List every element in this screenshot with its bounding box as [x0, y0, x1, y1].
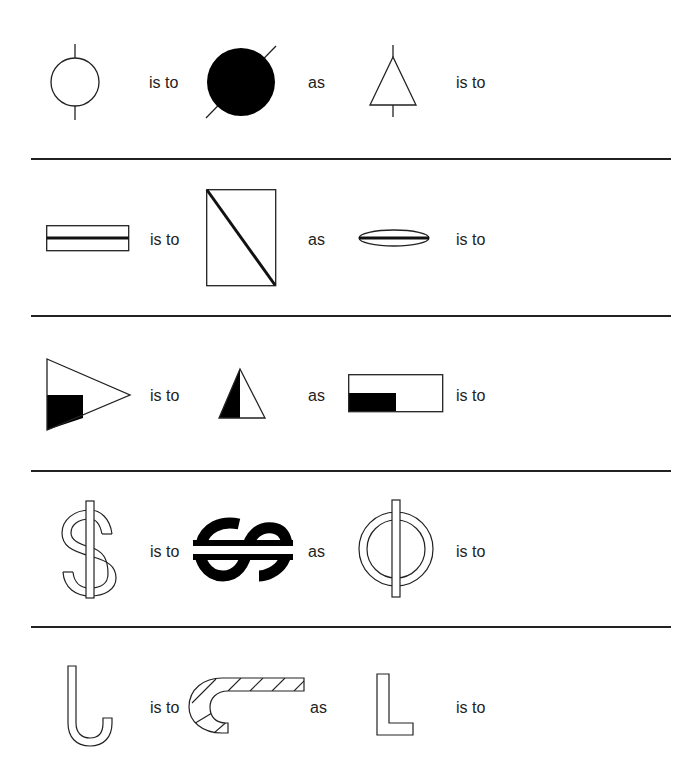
as-label: as	[308, 387, 325, 405]
wide-rectangle-line-icon	[46, 225, 130, 252]
row-divider	[31, 158, 671, 160]
triangle-with-ticks-icon	[368, 45, 418, 117]
rectangle-shaded-corner-icon	[348, 374, 444, 413]
is-to-label: is to	[456, 543, 485, 561]
as-label: as	[308, 74, 325, 92]
filled-circle-diagonal-icon	[204, 44, 278, 120]
is-to-label: is to	[456, 231, 485, 249]
bold-rotated-dollar-sign-icon	[193, 518, 293, 582]
as-label: as	[310, 699, 327, 717]
analogy-puzzle: is to as is to is to as is to	[0, 0, 700, 767]
circle-with-ticks-icon	[50, 44, 100, 120]
ellipse-line-icon	[357, 226, 431, 250]
row-divider	[31, 315, 671, 317]
is-to-label: is to	[149, 74, 178, 92]
hatched-hook-icon	[188, 677, 306, 735]
half-shaded-triangle-icon	[218, 368, 267, 420]
tall-rectangle-diagonal-icon	[206, 189, 277, 287]
is-to-label: is to	[150, 543, 179, 561]
is-to-label: is to	[456, 74, 485, 92]
is-to-label: is to	[150, 699, 179, 717]
is-to-label: is to	[150, 387, 179, 405]
as-label: as	[308, 543, 325, 561]
outlined-j-hook-icon	[66, 665, 114, 747]
outlined-letter-l-icon	[376, 673, 416, 737]
row-divider	[31, 470, 671, 472]
is-to-label: is to	[456, 699, 485, 717]
is-to-label: is to	[150, 231, 179, 249]
triangle-shaded-corner-icon	[46, 358, 132, 432]
as-label: as	[308, 231, 325, 249]
is-to-label: is to	[456, 387, 485, 405]
outlined-circle-bar-icon	[357, 499, 435, 599]
outlined-dollar-sign-icon	[58, 500, 122, 600]
row-divider	[31, 626, 671, 628]
